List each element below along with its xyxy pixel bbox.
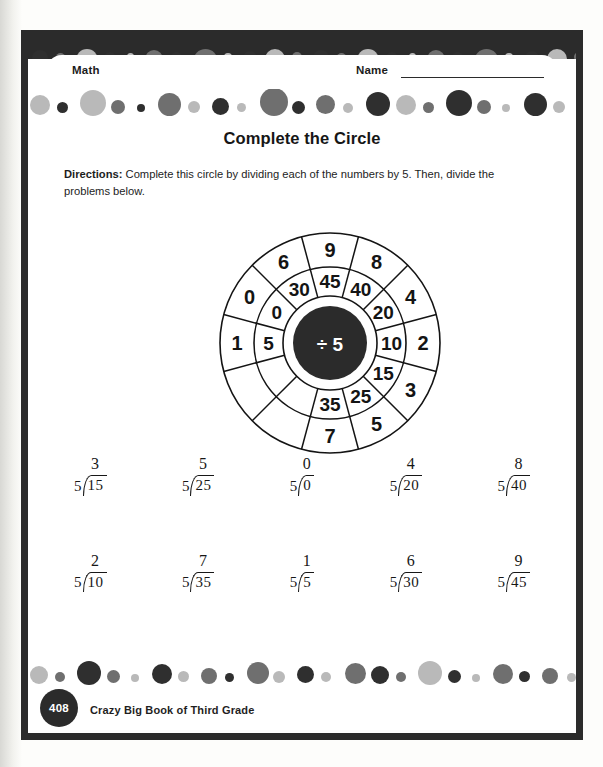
quotient-answer[interactable]: 3 xyxy=(84,456,107,472)
confetti-dot xyxy=(343,103,353,113)
student-info-bar: Math Name xyxy=(46,55,558,87)
confetti-dot xyxy=(237,103,246,112)
confetti-dot xyxy=(396,95,416,115)
confetti-dot xyxy=(32,50,48,59)
problem-row-2: 5210573551556305945 xyxy=(28,572,576,593)
wheel-outer-answer[interactable]: 1 xyxy=(231,332,242,354)
confetti-dot xyxy=(260,89,288,116)
wheel-middle-value: 15 xyxy=(373,363,395,384)
confetti-dot xyxy=(297,666,314,683)
division-problem: 5840 xyxy=(498,475,531,496)
confetti-dot xyxy=(201,668,217,684)
divisor: 5 xyxy=(290,575,299,592)
confetti-dot xyxy=(55,672,65,682)
confetti-dot xyxy=(567,673,576,682)
dividend: 10 xyxy=(88,574,104,590)
wheel-middle-value: 30 xyxy=(289,279,310,300)
division-problem: 5210 xyxy=(74,572,107,593)
circle-wheel-container: 5100306459408204102153255357 ÷ 5 xyxy=(28,230,576,466)
confetti-dot xyxy=(574,52,576,59)
confetti-dot xyxy=(321,672,331,682)
confetti-dot xyxy=(30,666,48,684)
complete-the-circle-diagram[interactable]: 5100306459408204102153255357 ÷ 5 xyxy=(218,230,442,456)
division-problem: 5525 xyxy=(182,475,215,496)
worksheet-content: Complete the Circle Directions: Complete… xyxy=(28,123,576,201)
long-division-bracket: 210 xyxy=(83,572,107,593)
wheel-outer-answer[interactable]: 8 xyxy=(371,251,382,273)
long-division-bracket: 735 xyxy=(190,572,214,593)
quotient-answer[interactable]: 9 xyxy=(507,553,530,569)
confetti-dot xyxy=(131,674,139,682)
long-division-bracket: 945 xyxy=(506,572,530,593)
quotient-answer[interactable]: 8 xyxy=(507,456,530,472)
divisor: 5 xyxy=(74,479,83,496)
wheel-outer-answer[interactable]: 4 xyxy=(405,286,417,308)
quotient-answer[interactable]: 7 xyxy=(191,553,214,569)
page-footer: 408 Crazy Big Book of Third Grade xyxy=(28,687,576,733)
wheel-outer-answer[interactable]: 3 xyxy=(405,379,416,401)
wheel-outer-answer[interactable]: 9 xyxy=(324,239,335,261)
wheel-outer-answer[interactable]: 0 xyxy=(244,286,255,308)
dividend: 30 xyxy=(403,574,419,590)
dividend: 25 xyxy=(195,477,211,493)
confetti-dot xyxy=(57,102,68,113)
wheel-outer-answer[interactable]: 6 xyxy=(278,251,289,273)
quotient-answer[interactable]: 1 xyxy=(299,553,314,569)
worksheet-page: Math Name Complete the Circle Directions… xyxy=(0,0,603,767)
divisor: 5 xyxy=(74,575,83,592)
confetti-dot xyxy=(446,90,472,116)
name-label: Name xyxy=(356,64,388,76)
divisor: 5 xyxy=(182,479,191,496)
confetti-dot xyxy=(77,661,101,685)
division-problem: 500 xyxy=(290,475,315,496)
confetti-dot xyxy=(371,666,389,684)
long-division-bracket: 525 xyxy=(190,475,214,496)
name-input-line[interactable] xyxy=(401,77,544,78)
confetti-dot xyxy=(366,92,390,116)
confetti-dot xyxy=(111,100,125,114)
wheel-outer-answer[interactable]: 2 xyxy=(417,332,428,354)
wheel-middle-value: 10 xyxy=(381,333,402,354)
long-division-bracket: 840 xyxy=(506,475,530,496)
confetti-dot xyxy=(316,95,335,114)
confetti-dot xyxy=(225,673,234,682)
long-division-bracket: 315 xyxy=(83,475,107,496)
directions-text: Directions: Complete this circle by divi… xyxy=(64,166,540,201)
dividend: 45 xyxy=(511,574,527,590)
problem-row-1: 5315552550054205840 xyxy=(28,475,576,496)
quotient-answer[interactable]: 0 xyxy=(299,456,314,472)
confetti-dot xyxy=(158,93,181,116)
wheel-outer-answer[interactable]: 7 xyxy=(324,425,335,447)
wheel-outer-answer[interactable]: 5 xyxy=(371,413,382,435)
confetti-dot xyxy=(553,101,565,113)
confetti-dot xyxy=(396,672,406,682)
wheel-middle-value: 20 xyxy=(373,302,394,323)
confetti-band-bottom xyxy=(28,661,576,687)
quotient-answer[interactable]: 2 xyxy=(84,553,107,569)
page-title: Complete the Circle xyxy=(28,129,576,148)
confetti-dot xyxy=(188,101,200,113)
long-division-bracket: 00 xyxy=(298,475,314,496)
long-division-bracket: 420 xyxy=(398,475,422,496)
wheel-middle-value: 25 xyxy=(350,386,372,407)
quotient-answer[interactable]: 5 xyxy=(191,456,214,472)
subject-label: Math xyxy=(72,64,100,76)
quotient-answer[interactable]: 6 xyxy=(399,553,422,569)
wheel-middle-value: 5 xyxy=(263,333,274,354)
dividend: 5 xyxy=(303,574,311,590)
division-problem: 5630 xyxy=(390,572,423,593)
quotient-answer[interactable]: 4 xyxy=(399,456,422,472)
confetti-dot xyxy=(30,95,50,115)
page-frame: Math Name Complete the Circle Directions… xyxy=(21,30,583,740)
confetti-dot xyxy=(519,671,530,682)
divisor: 5 xyxy=(390,575,399,592)
confetti-dot xyxy=(152,664,172,684)
division-problems: 5315552550054205840 5210573551556305945 xyxy=(28,475,576,592)
confetti-dot xyxy=(137,104,145,112)
directions-label: Directions: xyxy=(64,168,122,180)
division-problem: 5945 xyxy=(498,572,531,593)
division-problem: 5315 xyxy=(74,475,107,496)
confetti-dot xyxy=(524,93,547,116)
confetti-dot xyxy=(292,101,305,114)
dividend: 15 xyxy=(88,477,104,493)
